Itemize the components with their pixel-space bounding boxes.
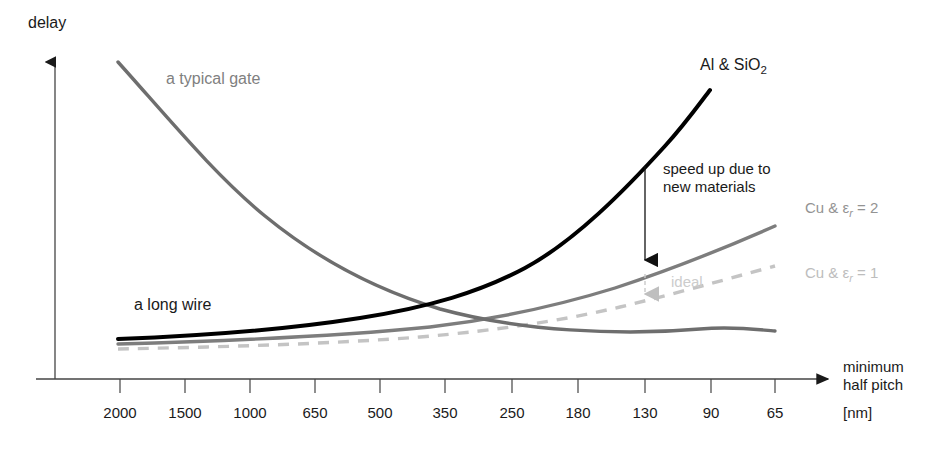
tick-label-650: 650 — [280, 404, 350, 421]
cu-er2-prefix: Cu & — [805, 199, 843, 216]
tick-label-1000: 1000 — [215, 404, 285, 421]
series-label-al-sio2: Al & SiO2 — [700, 56, 767, 78]
y-axis-label: delay — [28, 14, 66, 33]
tick-label-90: 90 — [676, 404, 746, 421]
cu-er1-prefix: Cu & — [805, 264, 843, 281]
annotation-speed-up: speed up due tonew materials — [663, 160, 771, 195]
x-axis-unit: [nm] — [843, 404, 872, 422]
series-label-cu-er1: Cu & εr = 1 — [805, 264, 878, 285]
al-sio2-text: Al & SiO — [700, 56, 760, 73]
al-sio2-subscript: 2 — [760, 64, 766, 76]
tick-label-350: 350 — [410, 404, 480, 421]
x-axis-label-line2: half pitch — [843, 376, 903, 393]
delay-vs-half-pitch-chart: delay minimumhalf pitch [nm] 2000 1500 1… — [0, 0, 936, 459]
speed-up-line2: new materials — [663, 178, 756, 195]
tick-label-250: 250 — [477, 404, 547, 421]
tick-label-500: 500 — [345, 404, 415, 421]
tick-label-2000: 2000 — [85, 404, 155, 421]
speed-up-line1: speed up due to — [663, 160, 771, 177]
tick-label-65: 65 — [740, 404, 810, 421]
x-axis-label: minimumhalf pitch — [843, 358, 904, 393]
cu-er1-suffix: = 1 — [853, 264, 878, 281]
tick-label-130: 130 — [610, 404, 680, 421]
series-label-typical-gate: a typical gate — [166, 70, 260, 89]
tick-label-180: 180 — [543, 404, 613, 421]
cu-er2-suffix: = 2 — [853, 199, 878, 216]
series-label-long-wire: a long wire — [134, 296, 211, 315]
chart-canvas — [0, 0, 936, 459]
tick-label-1500: 1500 — [150, 404, 220, 421]
series-label-cu-er2: Cu & εr = 2 — [805, 199, 878, 220]
x-axis-ticks — [120, 379, 775, 393]
annotation-ideal: ideal — [671, 273, 703, 291]
x-axis-label-line1: minimum — [843, 358, 904, 375]
